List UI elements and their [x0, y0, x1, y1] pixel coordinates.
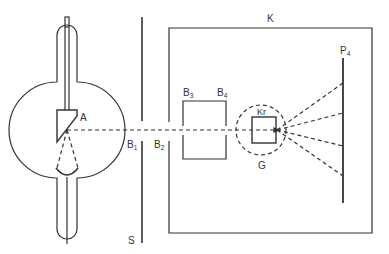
label-chamber: K: [267, 13, 274, 24]
diffracted-rays: [277, 83, 343, 176]
diffracted-ray-2: [277, 113, 343, 130]
label-goniometer: G: [258, 160, 266, 171]
cathode-cup: [56, 168, 78, 175]
label-film: P4: [340, 45, 351, 57]
diffracted-ray-3: [277, 130, 343, 146]
diffracted-ray-4: [277, 130, 343, 176]
electron-beam-right: [67, 130, 78, 168]
diagram-canvas: A B1 B2 S B3 B4 K Kr G P4: [0, 0, 389, 254]
label-b3: B3: [183, 87, 194, 99]
label-b1: B1: [127, 139, 138, 151]
diffracted-ray-1: [277, 83, 343, 130]
label-crystal: Kr: [257, 107, 266, 117]
label-b4: B4: [217, 87, 228, 99]
label-anode: A: [80, 112, 87, 123]
label-slit-screen: S: [128, 235, 135, 246]
anode-target: [57, 110, 77, 142]
label-b2: B2: [154, 139, 165, 151]
